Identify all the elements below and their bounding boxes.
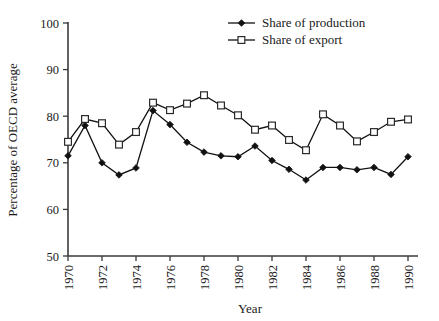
legend-marker-square-icon [238, 37, 245, 44]
data-point-marker [337, 164, 344, 171]
data-point-marker [99, 120, 106, 127]
data-point-marker [269, 122, 276, 129]
data-point-marker [82, 122, 89, 129]
data-point-marker [337, 122, 344, 129]
data-point-marker [150, 99, 157, 106]
x-axis-tick-label: 1976 [164, 265, 178, 290]
x-axis-tick-label: 1984 [300, 264, 314, 290]
legend-item-2: Share of export [228, 32, 343, 47]
data-point-marker [65, 153, 72, 160]
y-axis-tick-label: 60 [47, 203, 60, 217]
legend-label: Share of export [262, 32, 343, 47]
x-axis-tick-label: 1974 [130, 264, 144, 290]
data-series-group [65, 92, 412, 184]
y-axis-tick-label: 90 [47, 63, 60, 77]
data-point-marker [235, 112, 242, 119]
data-point-marker [405, 116, 412, 123]
data-point-marker [201, 149, 208, 156]
data-point-marker [116, 141, 123, 148]
x-axis-tick-label: 1982 [266, 265, 280, 290]
y-axis-tick-label: 50 [47, 250, 60, 264]
data-point-marker [320, 111, 327, 118]
data-point-marker [286, 166, 293, 173]
data-point-marker [303, 147, 310, 154]
x-axis-title: Year [238, 301, 263, 316]
x-axis-tick-label: 1990 [402, 265, 416, 290]
data-point-marker [388, 118, 395, 125]
data-point-marker [133, 129, 140, 136]
legend-item-1: Share of production [228, 15, 366, 30]
data-point-marker [201, 92, 208, 99]
y-axis-tick-label: 70 [47, 156, 60, 170]
data-point-marker [218, 102, 225, 109]
data-point-marker [252, 126, 259, 133]
x-axis-tick-label: 1980 [232, 265, 246, 290]
series-2 [65, 92, 412, 154]
x-axis-tick-label: 1986 [334, 265, 348, 290]
legend-marker-diamond-icon [238, 20, 245, 27]
x-axis-tick-label: 1972 [96, 265, 110, 290]
data-point-marker [354, 166, 361, 173]
data-point-marker [133, 165, 140, 172]
data-point-marker [354, 138, 361, 145]
data-point-marker [167, 107, 174, 114]
x-axis-tick-label: 1970 [62, 265, 76, 290]
y-axis: 5060708090100 [40, 17, 68, 264]
chart-legend: Share of productionShare of export [228, 15, 366, 47]
data-point-marker [82, 116, 89, 123]
x-axis-tick-label: 1988 [368, 265, 382, 290]
data-point-marker [371, 129, 378, 136]
data-point-marker [371, 164, 378, 171]
x-axis-tick-label: 1978 [198, 265, 212, 290]
y-axis-tick-label: 80 [47, 110, 60, 124]
y-axis-tick-label: 100 [40, 17, 59, 31]
data-point-marker [184, 100, 191, 107]
data-point-marker [286, 137, 293, 144]
data-point-marker [218, 153, 225, 160]
data-point-marker [65, 138, 72, 145]
legend-label: Share of production [262, 15, 366, 30]
x-axis: 1970197219741976197819801982198419861988… [62, 256, 419, 290]
y-axis-title: Percentage of OECD average [5, 63, 20, 217]
data-point-marker [235, 153, 242, 160]
chart-container: 5060708090100 19701972197419761978198019… [0, 0, 439, 321]
line-chart: 5060708090100 19701972197419761978198019… [0, 0, 439, 321]
